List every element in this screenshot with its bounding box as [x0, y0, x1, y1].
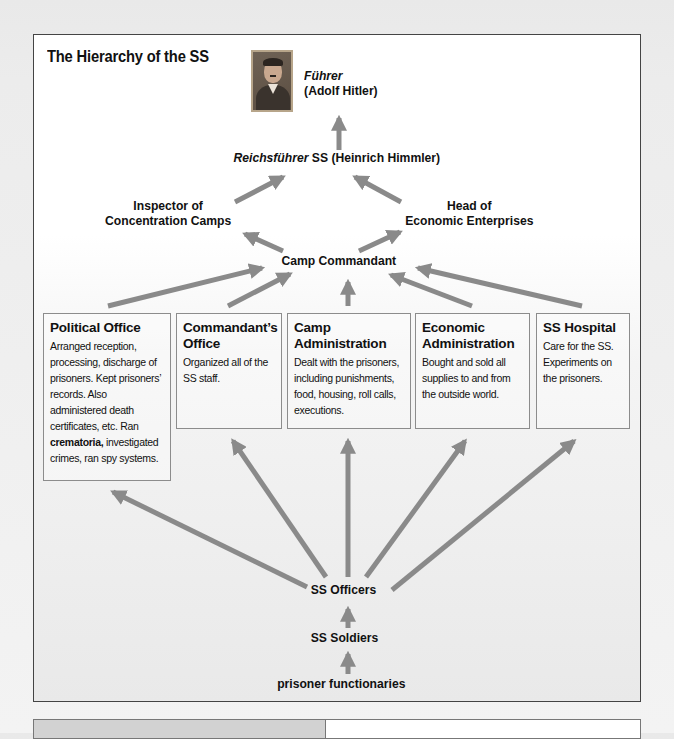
box-title: Political Office — [50, 320, 165, 336]
arrow-commandantsoffice-to-commandant — [228, 274, 290, 306]
fuhrer-title: Führer — [304, 68, 342, 83]
box-economic-administration: Economic Administration Bought and sold … — [415, 313, 530, 429]
reichsfuhrer-name: SS (Heinrich Himmler) — [308, 150, 440, 165]
arrow-inspector-to-himmler — [235, 177, 283, 202]
box-description: Organized all of the SS staff. — [183, 354, 276, 386]
arrow-hospital-to-commandant — [418, 268, 582, 306]
box-ss-hospital: SS Hospital Care for the SS. Experiments… — [536, 313, 630, 429]
box-title: SS Hospital — [543, 320, 624, 336]
arrow-head-to-himmler — [355, 177, 401, 202]
fuhrer-name: (Adolf Hitler) — [304, 83, 378, 98]
arrow-officers-to-hospital — [392, 441, 574, 590]
node-ss-officers: SS Officers — [311, 582, 377, 597]
arrow-officers-to-economic — [366, 441, 465, 577]
node-prisoner-functionaries: prisoner functionaries — [277, 676, 405, 691]
node-fuhrer: Führer (Adolf Hitler) — [304, 68, 378, 98]
head-line1: Head of — [405, 198, 533, 213]
box-description: Dealt with the prisoners, including puni… — [294, 354, 405, 418]
node-inspector: Inspector of Concentration Camps — [105, 198, 231, 228]
arrow-commandant-to-inspector — [245, 234, 283, 251]
inspector-line1: Inspector of — [105, 198, 231, 213]
box-title: Commandant’s Office — [183, 320, 276, 352]
reichsfuhrer-title: Reichsführer — [233, 150, 308, 165]
node-ss-soldiers: SS Soldiers — [311, 630, 379, 645]
box-camp-administration: Camp Administration Dealt with the priso… — [287, 313, 411, 429]
node-reichsfuhrer: Reichsführer SS (Heinrich Himmler) — [233, 150, 440, 165]
inspector-line2: Concentration Camps — [105, 213, 231, 228]
head-line2: Economic Enterprises — [405, 213, 533, 228]
arrow-commandant-to-head — [359, 232, 400, 251]
box-commandants-office: Commandant’s Office Organized all of the… — [176, 313, 282, 429]
box-description: Arranged reception, processing, discharg… — [50, 338, 165, 466]
bottom-panel-right — [325, 719, 641, 739]
box-title: Camp Administration — [294, 320, 405, 352]
box-description: Care for the SS. Experiments on the pris… — [543, 338, 624, 386]
node-head-economic: Head of Economic Enterprises — [405, 198, 533, 228]
box-description: Bought and sold all supplies to and from… — [422, 354, 524, 402]
node-camp-commandant: Camp Commandant — [281, 253, 396, 268]
bottom-panel-left — [33, 719, 325, 739]
box-title: Economic Administration — [422, 320, 524, 352]
box-political-office: Political Office Arranged reception, pro… — [43, 313, 171, 481]
